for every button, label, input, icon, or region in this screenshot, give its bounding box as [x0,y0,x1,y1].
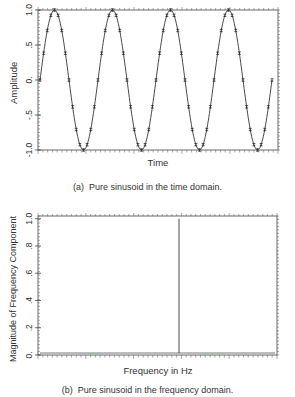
bottom-y-tick-label: .6 [24,269,34,276]
top-y-tick-label: .5 [24,41,34,48]
top-y-axis-label: Amplitude [8,62,19,104]
frequency-domain-plot: 0..2.4.6.81.0 [24,213,279,359]
bottom-caption: (b) Pure sinusoid in the frequency domai… [0,385,295,395]
top-plot-frame [38,10,278,150]
top-caption: (a) Pure sinusoid in the time domain. [0,182,295,192]
top-y-tick-label: 0. [24,76,34,83]
top-x-axis-label: Time [38,157,278,168]
top-y-tick-label: -.5 [24,110,34,120]
bottom-y-tick-label: 0. [24,351,34,358]
top-y-tick-label: 1.0 [24,4,34,16]
bottom-caption-prefix: (b) [62,385,73,395]
bottom-y-axis-label: Magnitude of Frequency Component [8,216,18,362]
top-caption-text: Pure sinusoid in the time domain. [89,182,222,192]
bottom-y-tick-label: .2 [24,324,34,331]
bottom-y-tick-label: .8 [24,242,34,249]
top-y-tick-label: -1.0 [24,142,34,157]
bottom-caption-text: Pure sinusoid in the frequency domain. [78,385,234,395]
bottom-x-axis-label: Frequency in Hz [38,365,278,376]
bottom-y-tick-label: .4 [24,297,34,304]
bottom-y-tick-label: 1.0 [24,213,34,225]
time-domain-plot: -1.0-.50..51.0 [24,4,280,158]
top-caption-prefix: (a) [73,182,84,192]
figure-canvas: -1.0-.50..51.0 0..2.4.6.81.0 [0,0,295,397]
bottom-plot-frame [38,216,277,355]
